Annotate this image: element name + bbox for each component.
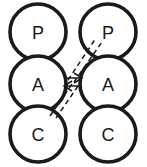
node-left-control-label: C [32, 125, 45, 145]
pac-diagram: P A C P A C [0, 0, 147, 167]
node-left-abstraction-label: A [32, 75, 44, 95]
column-right-agent: P A C [80, 4, 136, 162]
node-right-control-label: C [102, 125, 115, 145]
node-right-abstraction-label: A [102, 75, 114, 95]
diagram-canvas: P A C P A C [0, 0, 147, 167]
column-left-agent: P A C [10, 4, 66, 162]
node-right-presentation-label: P [102, 23, 114, 43]
node-left-presentation-label: P [32, 23, 44, 43]
